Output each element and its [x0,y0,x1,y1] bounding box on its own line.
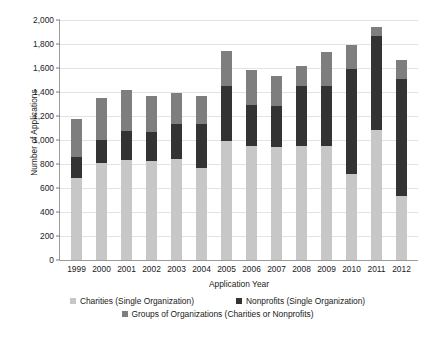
legend-swatch-groups-icon [122,311,128,317]
bar-segment[interactable] [171,93,182,124]
bar-stack[interactable] [346,45,357,260]
bar-stack[interactable] [246,70,257,260]
legend-item-nonprofits[interactable]: Nonprofits (Single Organization) [236,296,365,306]
bar-segment[interactable] [246,70,257,105]
bar-stack[interactable] [371,27,382,260]
bar-group[interactable] [139,20,164,260]
legend-row-2: Groups of Organizations (Charities or No… [0,309,435,319]
bar-group[interactable] [114,20,139,260]
bar-segment[interactable] [321,52,332,86]
bar-group[interactable] [64,20,89,260]
bar-group[interactable] [239,20,264,260]
bar-group[interactable] [364,20,389,260]
bar-segment[interactable] [396,60,407,79]
bar-segment[interactable] [371,36,382,131]
y-axis-tick-label: 1,600 [33,63,54,73]
legend-item-groups[interactable]: Groups of Organizations (Charities or No… [122,309,314,319]
legend-label-nonprofits: Nonprofits (Single Organization) [246,296,365,306]
bar-segment[interactable] [346,45,357,69]
bar-stack[interactable] [71,119,82,260]
bar-segment[interactable] [346,174,357,260]
bar-stack[interactable] [121,90,132,260]
bar-segment[interactable] [96,98,107,140]
bar-segment[interactable] [246,146,257,260]
bar-segment[interactable] [96,140,107,163]
bar-segment[interactable] [146,161,157,260]
x-axis-tick-label: 2009 [314,264,339,274]
bar-segment[interactable] [246,105,257,146]
bar-group[interactable] [214,20,239,260]
bar-segment[interactable] [371,130,382,260]
bar-stack[interactable] [296,66,307,260]
bar-group[interactable] [289,20,314,260]
legend-row-1: Charities (Single Organization) Nonprofi… [0,296,435,306]
bar-segment[interactable] [221,86,232,141]
bar-segment[interactable] [71,178,82,260]
bar-segment[interactable] [171,124,182,159]
bar-stack[interactable] [196,96,207,260]
bar-segment[interactable] [71,157,82,179]
bar-group[interactable] [264,20,289,260]
legend-label-groups: Groups of Organizations (Charities or No… [132,309,314,319]
bar-segment[interactable] [171,159,182,260]
bar-stack[interactable] [146,96,157,260]
bar-stack[interactable] [321,52,332,260]
bar-stack[interactable] [221,51,232,260]
x-axis-tick-label: 2006 [239,264,264,274]
x-axis-tick-label: 2002 [139,264,164,274]
legend-label-charities: Charities (Single Organization) [80,296,194,306]
bar-segment[interactable] [196,168,207,260]
bar-stack[interactable] [396,60,407,260]
bar-segment[interactable] [221,51,232,86]
legend-swatch-charities-icon [70,298,76,304]
y-axis-tick-label: 1,200 [33,111,54,121]
x-axis-tick-label: 2012 [389,264,414,274]
y-axis-tick-label: 200 [40,231,54,241]
bar-group[interactable] [314,20,339,260]
bar-segment[interactable] [296,66,307,86]
bar-segment[interactable] [321,86,332,146]
bar-segment[interactable] [96,163,107,260]
bar-group[interactable] [164,20,189,260]
bar-segment[interactable] [271,147,282,260]
bar-group[interactable] [189,20,214,260]
y-axis-tick-label: 2,000 [33,15,54,25]
x-axis-tick-label: 2001 [114,264,139,274]
bar-segment[interactable] [296,146,307,260]
y-axis-tick-label: 1,400 [33,87,54,97]
bar-segment[interactable] [146,96,157,132]
bar-segment[interactable] [296,86,307,146]
bar-stack[interactable] [271,76,282,260]
x-axis-tick-label: 2004 [189,264,214,274]
bar-segment[interactable] [196,124,207,168]
chart-legend: Charities (Single Organization) Nonprofi… [0,296,435,322]
bar-segment[interactable] [146,132,157,161]
bar-segment[interactable] [271,106,282,147]
x-axis-tick-label: 1999 [64,264,89,274]
bar-segment[interactable] [396,196,407,260]
bar-segment[interactable] [346,69,357,173]
plot-area: 02004006008001,0001,2001,4001,6001,8002,… [60,20,418,260]
bar-segment[interactable] [371,27,382,36]
bar-segment[interactable] [121,131,132,160]
bar-segment[interactable] [71,119,82,157]
x-axis-tick-label: 2010 [339,264,364,274]
bar-chart: Number of Applications 02004006008001,00… [0,0,435,338]
x-axis-tick-label: 2003 [164,264,189,274]
bar-segment[interactable] [221,141,232,260]
x-axis-tick-labels: 1999200020012002200320042005200620072008… [60,264,418,274]
y-axis-tick-label: 400 [40,207,54,217]
bar-segment[interactable] [121,160,132,260]
x-axis-tick-label: 2007 [264,264,289,274]
bar-segment[interactable] [396,79,407,197]
bar-group[interactable] [389,20,414,260]
bar-segment[interactable] [121,90,132,131]
bar-segment[interactable] [321,146,332,260]
bar-stack[interactable] [171,93,182,260]
legend-item-charities[interactable]: Charities (Single Organization) [70,296,194,306]
bar-segment[interactable] [196,96,207,124]
bar-group[interactable] [89,20,114,260]
bar-segment[interactable] [271,76,282,106]
bar-group[interactable] [339,20,364,260]
bar-stack[interactable] [96,98,107,260]
